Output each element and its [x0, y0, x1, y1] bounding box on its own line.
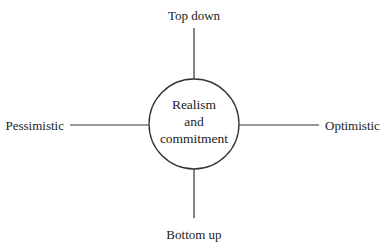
label-top-down: Top down — [168, 8, 221, 23]
center-label-line-1: Realism — [172, 97, 217, 112]
center-label-line-3: commitment — [160, 131, 228, 146]
label-bottom-up: Bottom up — [166, 227, 221, 242]
realism-commitment-diagram: Realism and commitment Top down Bottom u… — [0, 0, 390, 245]
center-label-line-2: and — [184, 114, 204, 129]
label-pessimistic: Pessimistic — [5, 118, 64, 133]
label-optimistic: Optimistic — [325, 118, 380, 133]
